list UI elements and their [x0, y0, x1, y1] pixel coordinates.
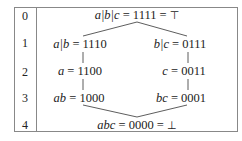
bottom-symbol-icon: ⊥: [167, 119, 177, 132]
node-ab-label: ab: [54, 91, 67, 105]
node-a-or-b: a|b = 1110: [53, 37, 106, 51]
node-a-value: = 1100: [64, 64, 102, 78]
node-bc: bc = 0001: [156, 91, 206, 105]
node-a: a = 1100: [58, 64, 102, 78]
node-b-or-c: b|c = 0111: [154, 37, 207, 51]
node-bottom: abc = 0000 = ⊥: [97, 118, 176, 133]
node-top-label: a|b|c: [95, 8, 120, 22]
node-bottom-value: = 0000 =: [115, 118, 167, 132]
node-top-value: = 1111 =: [120, 8, 170, 22]
node-bc-label: bc: [156, 91, 168, 105]
node-ab: ab = 1000: [54, 91, 105, 105]
node-c: c = 0011: [162, 64, 205, 78]
node-ab-value: = 1000: [66, 91, 104, 105]
node-bottom-label: abc: [97, 118, 115, 132]
node-c-value: = 0011: [168, 64, 206, 78]
node-a-or-b-label: a|b: [53, 37, 69, 51]
node-bc-value: = 0001: [168, 91, 206, 105]
node-b-or-c-label: b|c: [154, 37, 169, 51]
top-symbol-icon: ⊤: [170, 9, 180, 22]
node-b-or-c-value: = 0111: [169, 37, 206, 51]
node-top: a|b|c = 1111 = ⊤: [95, 8, 180, 23]
node-a-or-b-value: = 1110: [69, 37, 106, 51]
